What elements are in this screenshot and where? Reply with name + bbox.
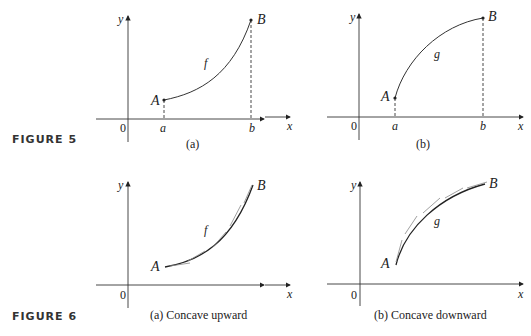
tick-a-label: a [160, 121, 166, 136]
point-A-label: A [381, 89, 390, 105]
origin-label: 0 [120, 288, 126, 303]
function-g-label: g [434, 214, 440, 229]
tangent-lines [170, 185, 252, 266]
function-g-label: g [434, 47, 440, 62]
tick-b-label: b [480, 119, 486, 134]
x-axis-label: x [518, 287, 523, 302]
panel-caption: (a) Concave upward [150, 308, 247, 323]
point-A-label: A [381, 256, 390, 272]
point-B-label: B [488, 9, 497, 25]
point-A-label: A [151, 259, 160, 275]
x-axis-label: x [287, 287, 292, 302]
function-f-label: f [204, 223, 207, 238]
x-axis-label: x [287, 119, 292, 134]
point-B-label: B [489, 176, 498, 192]
figure-5a-graph [0, 0, 265, 168]
function-f-label: f [204, 56, 207, 71]
curve-f [165, 185, 253, 267]
tick-b-label: b [249, 121, 255, 136]
curve-f [164, 20, 251, 100]
panel-caption: (b) [416, 137, 430, 152]
y-axis-label: y [118, 178, 123, 193]
y-axis-label: y [118, 12, 123, 27]
tick-a-label: a [392, 119, 398, 134]
figure-5b-graph [265, 0, 531, 168]
curve-g [396, 184, 485, 265]
origin-label: 0 [351, 119, 357, 134]
origin-label: 0 [120, 121, 126, 136]
x-axis-label: x [518, 119, 523, 134]
panel-caption: (a) [186, 137, 199, 152]
y-axis-label: y [350, 10, 355, 25]
y-axis-label: y [351, 178, 356, 193]
point-A-label: A [151, 93, 160, 109]
tangent-lines [396, 182, 487, 262]
origin-label: 0 [351, 288, 357, 303]
panel-caption: (b) Concave downward [374, 308, 487, 323]
